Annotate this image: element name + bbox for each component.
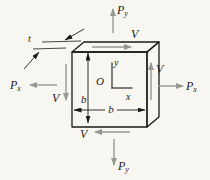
plate-element-diagram: t b b O y x Py V V Px Px xyxy=(0,0,210,180)
axis-x-label: x xyxy=(125,91,131,102)
axis-y-label: y xyxy=(113,57,119,68)
thickness-label: t xyxy=(28,33,31,44)
width-dimension-label: b xyxy=(108,103,114,115)
height-dimension-label: b xyxy=(81,93,87,105)
figure-background xyxy=(0,0,210,180)
origin-label: O xyxy=(96,75,104,87)
